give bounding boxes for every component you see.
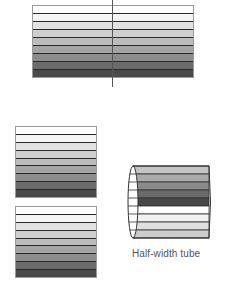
stripe: [16, 215, 96, 223]
stripe: [16, 143, 96, 151]
stripe: [16, 223, 96, 231]
stripe: [16, 135, 96, 143]
stripe: [16, 207, 96, 215]
stripe: [16, 159, 96, 167]
stripe: [16, 151, 96, 159]
stripe: [16, 246, 96, 254]
stripe: [33, 70, 193, 77]
stripe: [16, 127, 96, 135]
stripe: [33, 22, 193, 30]
stripe: [33, 6, 193, 14]
stripe: [33, 46, 193, 54]
center-fold-line: [112, 0, 113, 87]
middle-stripe-stack: [15, 126, 97, 198]
top-stripe-stack: [32, 5, 194, 78]
stripe: [16, 262, 96, 270]
stripe: [16, 190, 96, 197]
stripe: [33, 54, 193, 62]
stripe: [16, 239, 96, 247]
stripe: [16, 174, 96, 182]
stripe: [33, 62, 193, 70]
stripe: [16, 182, 96, 190]
tube-label: Half-width tube: [132, 248, 200, 259]
stripe: [16, 270, 96, 277]
bottom-stripe-stack: [15, 206, 97, 278]
stripe: [33, 30, 193, 38]
stripe: [16, 231, 96, 239]
half-width-tube: [125, 160, 220, 245]
stripe: [33, 14, 193, 22]
stripe: [16, 166, 96, 174]
stripe: [16, 254, 96, 262]
stripe: [33, 38, 193, 46]
